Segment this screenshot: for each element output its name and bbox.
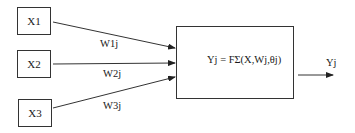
input-node-x3: X3 (18, 99, 52, 127)
input-label-x2: X2 (27, 58, 40, 70)
neuron-node: Yj = FΣ(X,Wj,θj) (176, 26, 294, 99)
weight-label-w2j: W2j (103, 68, 121, 79)
input-node-x2: X2 (17, 50, 51, 78)
input-label-x1: X1 (27, 15, 40, 27)
arrow-x2-to-neuron (53, 63, 175, 64)
input-label-x3: X3 (28, 107, 41, 119)
weight-label-w3j: W3j (103, 100, 121, 111)
output-label: Yj (326, 57, 337, 68)
neuron-formula: Yj = FΣ(X,Wj,θj) (207, 54, 281, 65)
input-node-x1: X1 (17, 7, 51, 35)
weight-label-w1j: W1j (100, 38, 118, 49)
